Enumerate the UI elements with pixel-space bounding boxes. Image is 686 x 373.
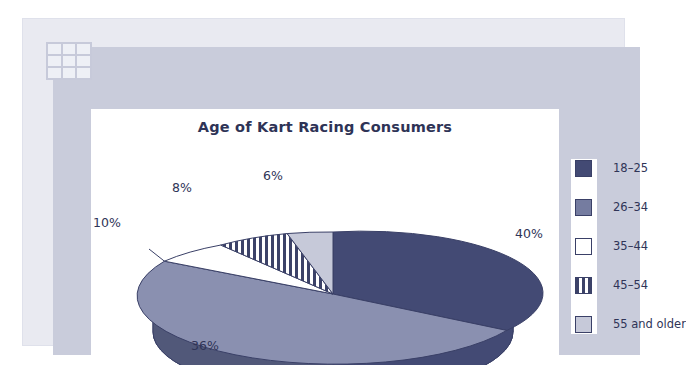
figure-outer-frame: Age of Kart Racing Consumers: [22, 18, 625, 346]
legend-label-45-54: 45–54: [613, 278, 648, 292]
legend-label-55-and-older: 55 and older: [613, 317, 686, 331]
legend-swatch-slate-icon: [575, 199, 592, 216]
legend-label-26-34: 26–34: [613, 200, 648, 214]
pie-label-18-25: 40%: [515, 226, 543, 241]
legend-swatch-light-icon: [575, 316, 592, 333]
chart-plot-area: Age of Kart Racing Consumers: [91, 109, 559, 365]
grid-cell: [63, 68, 76, 78]
pie-label-55-and-older: 6%: [263, 168, 283, 183]
legend-label-18-25: 18–25: [613, 161, 648, 175]
grid-cell: [63, 44, 76, 54]
grid-handle-icon[interactable]: [46, 42, 92, 80]
leader-line-10: [149, 249, 164, 261]
grid-cell: [48, 56, 61, 66]
pie-label-35-44: 10%: [93, 215, 121, 230]
chart-legend: 18–25 26–34 35–44 45–54 55 and older: [571, 159, 671, 334]
legend-item-55-and-older[interactable]: 55 and older: [571, 315, 686, 333]
pie-chart: [91, 109, 559, 365]
legend-swatch-hatch-icon: [575, 277, 592, 294]
pie-label-26-34: 36%: [191, 338, 219, 353]
legend-item-35-44[interactable]: 35–44: [571, 237, 648, 255]
legend-item-45-54[interactable]: 45–54: [571, 276, 648, 294]
legend-item-26-34[interactable]: 26–34: [571, 198, 648, 216]
grid-cell: [63, 56, 76, 66]
pie-label-45-54: 8%: [172, 180, 192, 195]
legend-swatch-white-icon: [575, 238, 592, 255]
grid-cell: [48, 44, 61, 54]
grid-cell: [48, 68, 61, 78]
legend-swatch-navy-icon: [575, 160, 592, 177]
pie-chart-svg: [91, 109, 559, 365]
legend-label-35-44: 35–44: [613, 239, 648, 253]
legend-item-18-25[interactable]: 18–25: [571, 159, 648, 177]
grid-cell: [77, 44, 90, 54]
grid-cell: [77, 56, 90, 66]
grid-cell: [77, 68, 90, 78]
chart-object-frame[interactable]: Age of Kart Racing Consumers: [53, 47, 640, 355]
